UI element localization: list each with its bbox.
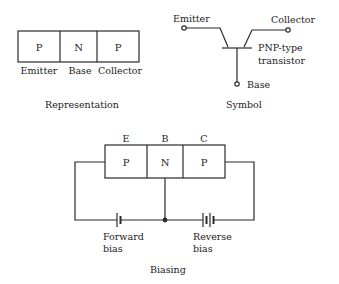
symbol-type-line2: transistor [258,55,305,66]
terminal-b: B [162,133,169,144]
symbol-type-line1: PNP-type [258,42,303,53]
representation-caption: Representation [45,99,119,110]
collector-terminal-icon [286,28,290,32]
rep-label-base: Base [68,65,92,76]
bias-region-1: P [123,157,130,168]
bias-region-3: P [201,157,208,168]
rep-region-3: P [115,42,122,53]
reverse-bias-line1: Reverse [193,231,232,242]
emitter-terminal-icon [182,26,186,30]
forward-bias-line1: Forward [103,231,144,242]
forward-bias-line2: bias [103,243,123,254]
biasing-caption: Biasing [150,264,186,275]
pnp-transistor-diagram: P N P Emitter Base Collector Representat… [0,0,339,284]
terminal-e: E [123,133,130,144]
symbol-emitter-label: Emitter [173,13,210,24]
reverse-bias-line2: bias [193,243,213,254]
rep-region-2: N [74,42,83,53]
rep-label-collector: Collector [98,65,143,76]
reverse-wire [214,162,254,220]
reverse-battery-icon [203,213,214,227]
forward-wire [75,162,117,220]
rep-region-1: P [36,42,43,53]
junction-dot [163,218,168,223]
rep-label-emitter: Emitter [21,65,58,76]
bias-region-2: N [161,157,170,168]
symbol-collector-label: Collector [271,14,316,25]
terminal-c: C [200,133,207,144]
base-terminal-icon [235,82,239,86]
symbol-base-label: Base [247,79,271,90]
symbol-caption: Symbol [226,99,262,110]
